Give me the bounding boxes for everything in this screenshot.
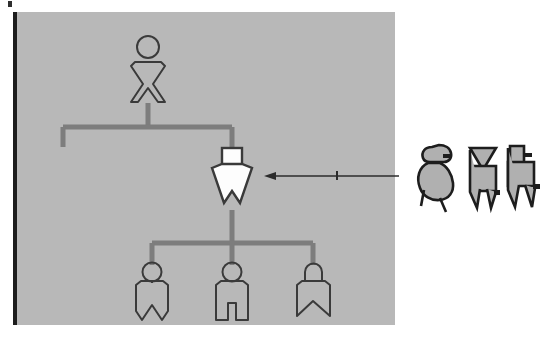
diagram-panel (13, 12, 395, 325)
legend-figure-triangle[interactable] (470, 148, 500, 208)
corner-tick-icon (8, 1, 12, 7)
diagram-stage (0, 0, 543, 340)
legend-figure-square[interactable] (508, 146, 540, 207)
legend-figure-rounded[interactable] (418, 145, 453, 212)
arrow-tick-mark (336, 171, 338, 180)
